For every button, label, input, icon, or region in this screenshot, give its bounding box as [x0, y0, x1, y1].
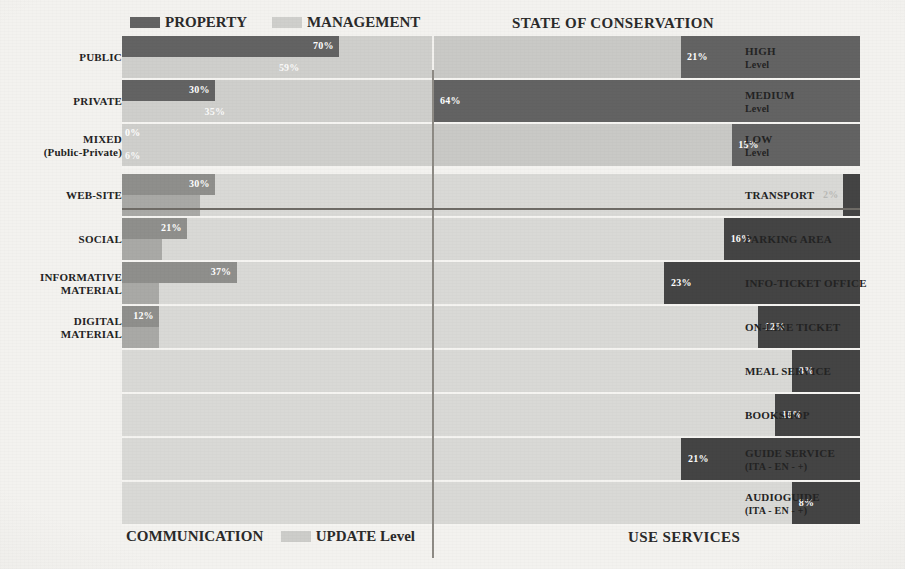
- bar-update-1: [122, 239, 162, 260]
- row-band-digital: 12%: [122, 306, 432, 348]
- bar-management-0: [122, 57, 305, 78]
- row-band-social: 21%: [122, 218, 432, 260]
- panel-divider-vertical: [432, 70, 434, 558]
- ylabel-private: PRIVATE: [4, 95, 122, 108]
- ylabel-right-meal-service: MEAL SERVICE: [745, 365, 831, 378]
- row-band-medium: 64%: [434, 80, 860, 122]
- title-use-services: USE SERVICES: [628, 529, 740, 546]
- title-state-of-conservation: STATE OF CONSERVATION: [512, 15, 714, 32]
- ylabel-right-low: LOWLevel: [745, 133, 773, 159]
- plot-area: 70%59%30%35%0%6%30%21%37%12%21%64%15%2%1…: [122, 36, 738, 520]
- legend-property-label: PROPERTY: [165, 14, 246, 30]
- ylabel-mixed: MIXED(Public-Private): [4, 133, 122, 158]
- row-band-public: 70%59%: [122, 36, 432, 78]
- management-swatch: [272, 17, 302, 28]
- ylabel-right-audioguide: AUDIOGUIDE(ITA - EN - +): [745, 491, 820, 517]
- ylabel-right-guide-service: GUIDE SERVICE(ITA - EN - +): [745, 447, 835, 473]
- bar-property-0: [122, 36, 339, 57]
- row-band-empty-left-2: [122, 438, 432, 480]
- legend-top: PROPERTY MANAGEMENT: [130, 14, 420, 31]
- bar-update-0: [122, 195, 200, 216]
- value-communication-2: 37%: [211, 267, 232, 277]
- legend-bottom: COMMUNICATION UPDATE Level: [126, 528, 415, 545]
- value-service-2: 23%: [671, 278, 692, 288]
- row-band-empty-left-0: [122, 350, 432, 392]
- ylabel-digital: DIGITALMATERIAL: [4, 315, 122, 340]
- value-conservation-0: 21%: [687, 52, 708, 62]
- value-service-0: 2%: [823, 190, 838, 200]
- ylabel-right-medium: MEDIUMLevel: [745, 89, 794, 115]
- ylabel-right-high: HIGHLevel: [745, 45, 776, 71]
- row-band-private: 30%35%: [122, 80, 432, 122]
- legend-communication-label: COMMUNICATION: [126, 528, 263, 544]
- row-band-empty-left-3: [122, 482, 432, 524]
- value-communication-0: 30%: [189, 179, 210, 189]
- ylabel-web-site: WEB-SITE: [4, 189, 122, 202]
- row-band-mixed: 0%6%: [122, 124, 432, 166]
- ylabel-right-info-ticket-office: INFO-TICKET OFFICE: [745, 277, 867, 290]
- legend-update-label: UPDATE Level: [316, 528, 415, 544]
- ylabel-right-on-line-ticket: ON-LINE TICKET: [745, 321, 840, 334]
- value-management-2: 6%: [125, 151, 140, 161]
- panel-divider-horizontal: [122, 208, 860, 210]
- value-communication-3: 12%: [133, 311, 154, 321]
- value-property-0: 70%: [313, 41, 334, 51]
- property-swatch: [130, 17, 160, 28]
- bar-update-3: [122, 327, 159, 348]
- ylabel-social: SOCIAL: [4, 233, 122, 246]
- value-conservation-1: 64%: [440, 96, 461, 106]
- update-level-swatch: [281, 531, 311, 542]
- legend-management-label: MANAGEMENT: [307, 14, 420, 30]
- ylabel-public: PUBLIC: [4, 51, 122, 64]
- value-property-1: 30%: [189, 85, 210, 95]
- value-property-2: 0%: [125, 128, 140, 138]
- row-band-high: 21%: [434, 36, 860, 78]
- bar-update-2: [122, 283, 159, 304]
- row-band-informative: 37%: [122, 262, 432, 304]
- ylabel-right-bookshop: BOOKSHOP: [745, 409, 810, 422]
- row-band-empty-left-1: [122, 394, 432, 436]
- value-management-1: 35%: [205, 107, 226, 117]
- ylabel-right-transport: TRANSPORT: [745, 189, 814, 202]
- value-management-0: 59%: [279, 63, 300, 73]
- row-band-low: 15%: [434, 124, 860, 166]
- ylabel-informative: INFORMATIVEMATERIAL: [4, 271, 122, 296]
- ylabel-right-parking-area: PARKING AREA: [745, 233, 832, 246]
- value-communication-1: 21%: [161, 223, 182, 233]
- bar-conservation-1: [434, 80, 860, 122]
- value-service-6: 21%: [688, 454, 709, 464]
